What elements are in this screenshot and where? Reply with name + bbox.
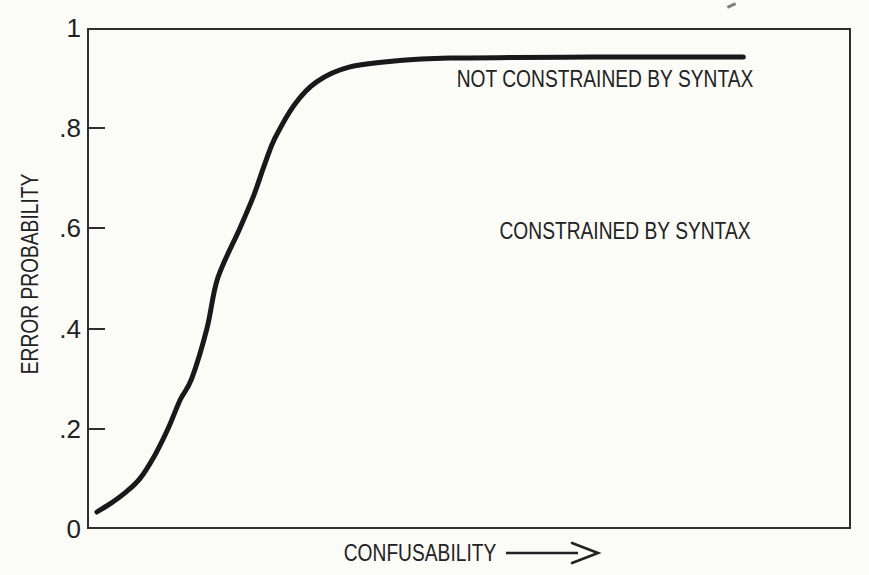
y-tick-label: 0 [31,514,81,544]
annotation-label: NOT CONSTRAINED BY SYNTAX [457,65,754,93]
figure-canvas: 1.8.6.4.20 NOT CONSTRAINED BY SYNTAXCONS… [0,0,869,575]
y-tick-mark [89,127,105,129]
y-tick-label: 1 [31,13,81,43]
y-tick-mark [89,227,105,229]
curve-svg [87,28,851,529]
y-tick-mark [89,328,105,330]
right-arrow-icon [502,540,604,566]
annotation-label: CONSTRAINED BY SYNTAX [499,217,750,245]
scan-artifact-mark [727,2,736,8]
sigmoid-curve [97,57,743,512]
x-axis-title: CONFUSABILITY [344,539,497,567]
y-tick-label: .2 [31,414,81,444]
y-tick-mark [89,428,105,430]
y-tick-label: .8 [31,113,81,143]
y-axis-title: ERROR PROBABILITY [16,174,44,375]
